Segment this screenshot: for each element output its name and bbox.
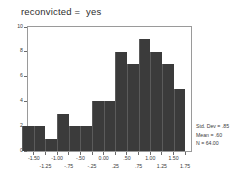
histogram-bar xyxy=(127,64,139,151)
histogram-bar xyxy=(150,52,162,151)
statistics-box: Std. Dev = .85 Mean = .60 N = 64.00 xyxy=(196,122,239,148)
x-tick-label: .75 xyxy=(135,163,142,170)
x-tick-label: -.25 xyxy=(88,163,97,170)
x-tick-mark xyxy=(185,152,186,155)
histogram-bar xyxy=(174,89,186,151)
plot-area xyxy=(27,26,192,152)
histogram-bar xyxy=(139,39,151,151)
x-tick-mark xyxy=(138,152,139,155)
histogram-bar xyxy=(92,101,104,151)
x-tick-mark xyxy=(115,152,116,155)
x-tick-label: 0.00 xyxy=(99,155,109,162)
x-tick-mark xyxy=(92,152,93,155)
x-tick-label: 1.75 xyxy=(180,163,190,170)
y-tick-label: 10 xyxy=(17,23,23,29)
x-tick-label: .50 xyxy=(123,155,130,162)
x-tick-label: 1.00 xyxy=(145,155,155,162)
x-tick-label: -1.00 xyxy=(51,155,63,162)
x-tick-label: -1.25 xyxy=(40,163,52,170)
x-tick-label: 1.25 xyxy=(157,163,167,170)
histogram-bar xyxy=(80,126,92,151)
y-tick-label: 6 xyxy=(20,72,23,78)
histogram-bar xyxy=(162,64,174,151)
x-tick-label: -1.50 xyxy=(28,155,40,162)
histogram-bar xyxy=(104,101,116,151)
x-tick-label: -.75 xyxy=(64,163,73,170)
y-tick-label: 4 xyxy=(20,97,23,103)
y-tick-label: 8 xyxy=(20,47,23,53)
x-tick-mark xyxy=(161,152,162,155)
histogram-bar xyxy=(69,126,81,151)
histogram-bar xyxy=(45,139,57,151)
x-tick-mark xyxy=(68,152,69,155)
x-tick-label: .25 xyxy=(112,163,119,170)
stat-n: N = 64.00 xyxy=(196,139,239,148)
x-tick-label: -.50 xyxy=(76,155,85,162)
histogram-bar xyxy=(22,126,34,151)
histogram-figure: reconvicted = yes 0246810 -1.50-1.00-.50… xyxy=(0,0,239,185)
x-tick-mark xyxy=(45,152,46,155)
x-axis: -1.50-1.00-.500.00.501.001.50-1.25-.75-.… xyxy=(27,152,192,185)
stat-mean: Mean = .60 xyxy=(196,131,239,140)
plot-inner xyxy=(28,27,191,151)
histogram-bar xyxy=(57,114,69,151)
stat-std-dev: Std. Dev = .85 xyxy=(196,122,239,131)
x-tick-label: 1.50 xyxy=(168,155,178,162)
bars-layer xyxy=(28,27,191,151)
chart-title: reconvicted = yes xyxy=(21,6,101,17)
histogram-bar xyxy=(115,52,127,151)
histogram-bar xyxy=(34,126,46,151)
